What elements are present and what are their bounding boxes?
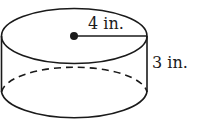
bottom-base-hidden-edge (2, 67, 148, 92)
bottom-base-front (2, 92, 148, 118)
cylinder-diagram: 4 in. 3 in. (0, 0, 198, 128)
center-point (70, 32, 78, 40)
height-label: 3 in. (152, 53, 188, 72)
radius-label: 4 in. (88, 14, 124, 33)
